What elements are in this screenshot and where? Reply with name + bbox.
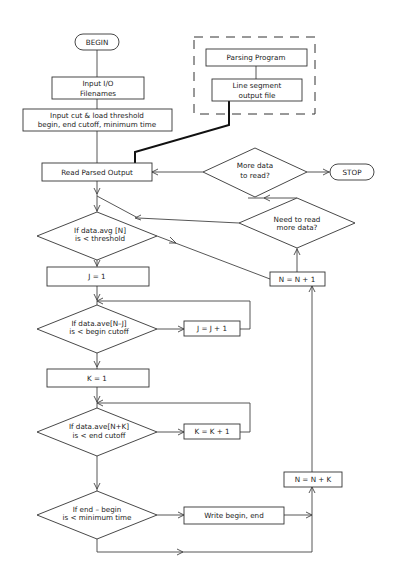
parsing-program-label: Parsing Program	[227, 53, 286, 62]
edge-need-to-spine	[97, 196, 239, 223]
process-j-plus-1: J = J + 1	[184, 321, 240, 336]
more-data-label-line1: More data	[237, 161, 273, 170]
k-plus-1-label: K = K + 1	[194, 427, 229, 436]
process-write-begin-end: Write begin, end	[184, 507, 284, 524]
terminal-stop: STOP	[330, 164, 374, 180]
process-parsing-program: Parsing Program	[206, 49, 307, 66]
decision-if-end: If data.ave[N+K] is < end cutoff	[37, 408, 157, 456]
process-input-cut: Input cut & load threshold begin, end cu…	[23, 109, 172, 131]
j-eq-1-label: J = 1	[87, 272, 105, 281]
j-plus-1-label: J = J + 1	[196, 324, 227, 333]
n-plus-k-label: N = N + K	[295, 475, 332, 484]
stop-label: STOP	[343, 168, 363, 177]
input-io-label-line2: Filenames	[80, 89, 116, 98]
decision-if-min-time: If end – begin is < minimum time	[37, 491, 157, 539]
process-n-plus-k: N = N + K	[284, 472, 342, 487]
file-line-segment: Line segment output file	[212, 79, 302, 101]
if-end-label-line1: If data.ave[N+K]	[69, 422, 129, 431]
process-k-eq-1: K = 1	[47, 369, 149, 387]
begin-label: BEGIN	[86, 38, 109, 47]
line-segment-label-line1: Line segment	[233, 81, 282, 90]
more-data-label-line2: to read?	[240, 171, 270, 180]
process-read-parsed-output: Read Parsed Output	[42, 163, 152, 181]
parsing-group-boundary	[194, 37, 315, 114]
process-k-plus-1: K = K + 1	[184, 424, 240, 439]
write-label: Write begin, end	[204, 511, 263, 520]
decision-more-data: More data to read?	[203, 148, 307, 197]
terminal-begin: BEGIN	[75, 34, 119, 50]
n-plus-1-label: N = N + 1	[279, 275, 316, 284]
decision-if-begin: If data.ave[N–J] is < begin cutoff	[37, 305, 157, 353]
input-io-label-line1: Input I/O	[82, 79, 113, 88]
input-cut-label-line1: Input cut & load threshold	[50, 111, 144, 120]
if-begin-label-line2: is < begin cutoff	[69, 327, 129, 336]
input-cut-label-line2: begin, end cutoff, minimum time	[38, 120, 157, 129]
read-parsed-label: Read Parsed Output	[61, 168, 133, 177]
process-input-io: Input I/O Filenames	[52, 77, 144, 99]
if-avg-label-line2: is < threshold	[75, 234, 125, 243]
line-segment-label-line2: output file	[239, 91, 277, 100]
need-to-read-label-line2: more data?	[277, 223, 318, 232]
decision-need-to-read: Need to read more data?	[239, 198, 355, 248]
process-j-eq-1: J = 1	[47, 267, 149, 286]
edge-if-avg-to-n-plus-1	[157, 236, 270, 279]
k-eq-1-label: K = 1	[87, 374, 107, 383]
if-end-label-line2: is < end cutoff	[73, 431, 127, 440]
flowchart: BEGIN Input I/O Filenames Input cut & lo…	[0, 0, 395, 585]
if-min-label-line2: is < minimum time	[63, 513, 133, 522]
process-n-plus-1: N = N + 1	[270, 272, 325, 286]
